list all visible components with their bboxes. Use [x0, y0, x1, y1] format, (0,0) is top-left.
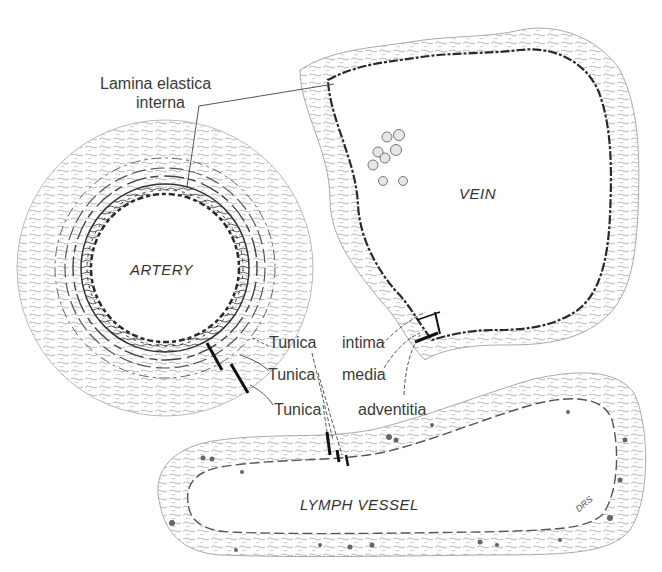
label-artery: ARTERY	[130, 262, 193, 277]
label-tunica-3: Tunica	[274, 402, 321, 418]
label-intima: intima	[342, 335, 385, 351]
label-tunica-2: Tunica	[268, 367, 315, 383]
vessel-diagram: Lamina elastica interna ARTERY VEIN LYMP…	[0, 0, 662, 572]
label-tunica-1: Tunica	[269, 335, 316, 351]
label-lymph-vessel: LYMPH VESSEL	[300, 497, 419, 512]
label-adventitia: adventitia	[358, 402, 427, 418]
label-lamina-elastica: Lamina elastica	[100, 76, 211, 92]
label-media: media	[342, 367, 386, 383]
label-vein: VEIN	[459, 186, 496, 201]
label-lamina-interna: interna	[136, 95, 185, 111]
